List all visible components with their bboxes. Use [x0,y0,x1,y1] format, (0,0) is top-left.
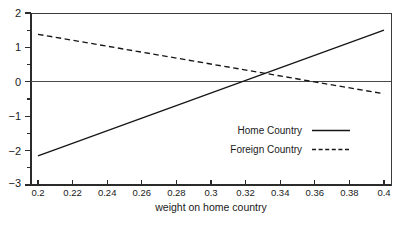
y-axis-ticks [25,13,31,185]
y-label-1: 1 [15,41,21,53]
x-label-0p30: 0.3 [204,187,217,198]
y-label-neg3: −3 [8,177,21,189]
axes [31,13,391,185]
x-label-0p32: 0.32 [236,187,255,198]
x-label-0p20: 0.2 [31,187,44,198]
y-label-neg1: −1 [8,110,21,122]
x-label-0p26: 0.26 [133,187,152,198]
y-axis-labels: 2 1 0 −1 −2 −3 [8,7,21,189]
chart-legend: Home Country Foreign Country [230,125,350,155]
series-foreign-country-line [38,34,384,94]
chart-figure: 2 1 0 −1 −2 −3 0.2 0.22 0.24 0.26 [0,0,409,230]
x-label-0p38: 0.38 [340,187,359,198]
x-label-0p22: 0.22 [63,187,82,198]
x-label-0p40: 0.4 [377,187,390,198]
x-axis-title: weight on home country [154,201,267,213]
y-label-2: 2 [15,7,21,19]
x-label-0p28: 0.28 [167,187,186,198]
x-axis-ticks [38,180,384,185]
frame-border [31,13,391,185]
x-label-0p24: 0.24 [98,187,117,198]
series-home-country-line [38,30,384,156]
line-chart: 2 1 0 −1 −2 −3 0.2 0.22 0.24 0.26 [0,0,409,230]
x-label-0p36: 0.36 [306,187,325,198]
legend-label-home-country: Home Country [238,125,302,136]
x-axis-labels: 0.2 0.22 0.24 0.26 0.28 0.3 0.32 0.34 0.… [31,187,390,198]
y-label-0: 0 [15,76,21,88]
plot-frame [31,13,391,185]
legend-label-foreign-country: Foreign Country [230,144,302,155]
x-label-0p34: 0.34 [271,187,290,198]
y-label-neg2: −2 [8,145,21,157]
